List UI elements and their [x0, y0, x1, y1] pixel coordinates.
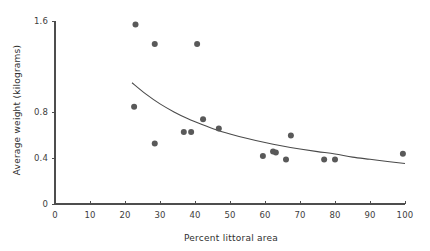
x-tick-label: 100 [397, 210, 414, 220]
y-tick-label: 0 [42, 199, 48, 209]
x-tick-label: 20 [119, 210, 130, 220]
x-tick-label: 30 [154, 210, 165, 220]
x-tick-label: 90 [364, 210, 375, 220]
trend-curve [132, 83, 405, 164]
chart-canvas: 00.40.81.6 0102030405060708090100 Percen… [0, 0, 430, 251]
data-point [283, 156, 289, 162]
y-axis-ticks: 00.40.81.6 [34, 16, 55, 209]
data-point [260, 153, 266, 159]
scatter-chart: 00.40.81.6 0102030405060708090100 Percen… [0, 0, 430, 251]
x-tick-label: 80 [329, 210, 340, 220]
x-tick-label: 60 [259, 210, 270, 220]
x-tick-label: 50 [224, 210, 235, 220]
data-point [152, 140, 158, 146]
data-point [321, 156, 327, 162]
data-point [273, 150, 279, 156]
y-tick-label: 1.6 [34, 16, 48, 26]
data-point [216, 126, 222, 132]
data-point [400, 151, 406, 157]
x-tick-label: 0 [52, 210, 58, 220]
data-point [131, 104, 137, 110]
x-tick-label: 10 [84, 210, 95, 220]
data-point [133, 21, 139, 27]
x-tick-label: 40 [189, 210, 200, 220]
y-tick-label: 0.4 [34, 153, 48, 163]
y-axis-group: 00.40.81.6 [34, 16, 55, 209]
data-point [288, 132, 294, 138]
data-point [194, 41, 200, 47]
y-tick-label: 0.8 [34, 107, 48, 117]
y-axis-title: Average weight (kilograms) [12, 45, 22, 176]
data-point [188, 129, 194, 135]
data-point [152, 41, 158, 47]
data-point [332, 156, 338, 162]
x-axis-group: 0102030405060708090100 [52, 201, 413, 221]
data-point [181, 129, 187, 135]
data-points-group [131, 21, 406, 162]
x-axis-title: Percent littoral area [184, 233, 278, 243]
data-point [200, 116, 206, 122]
x-tick-label: 70 [294, 210, 305, 220]
